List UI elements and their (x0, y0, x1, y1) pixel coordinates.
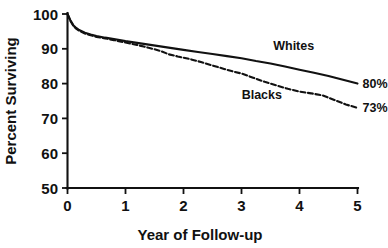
end-label-blacks: 73% (363, 101, 388, 115)
y-axis-title: Percent Surviving (2, 37, 19, 165)
end-label-whites: 80% (363, 77, 388, 91)
y-tick-label: 80 (41, 75, 58, 92)
x-tick-label: 4 (295, 197, 304, 214)
x-tick-label: 5 (353, 197, 361, 214)
y-tick-label: 70 (41, 110, 58, 127)
chart-background (0, 0, 388, 248)
y-tick-label: 50 (41, 180, 58, 197)
x-tick-label: 3 (237, 197, 245, 214)
series-label-whites: Whites (273, 39, 314, 53)
x-tick-label: 0 (63, 197, 71, 214)
y-tick-label: 60 (41, 145, 58, 162)
x-tick-label: 2 (179, 197, 187, 214)
series-label-blacks: Blacks (242, 88, 282, 102)
x-tick-label: 1 (121, 197, 129, 214)
chart-canvas: 100 90 80 70 60 50 0 1 2 3 4 5 Percent S… (0, 0, 388, 248)
survival-curve-figure: 100 90 80 70 60 50 0 1 2 3 4 5 Percent S… (0, 0, 388, 248)
y-tick-label: 100 (33, 6, 58, 23)
y-tick-label: 90 (41, 40, 58, 57)
x-axis-title: Year of Follow-up (137, 226, 262, 243)
